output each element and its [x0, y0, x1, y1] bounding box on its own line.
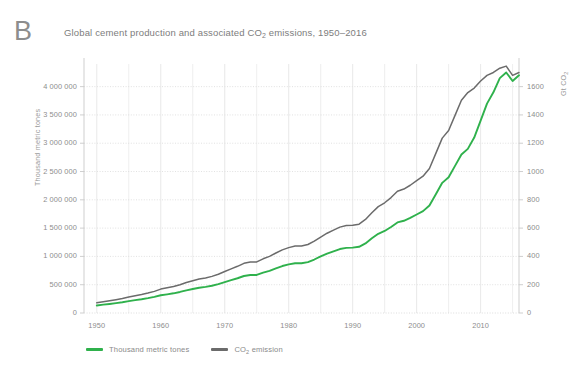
plot-area [0, 0, 587, 376]
y-axis-right-tick-label: 200 [527, 280, 540, 289]
legend-item[interactable]: Thousand metric tones [86, 345, 189, 354]
y-axis-right-tick-label: 800 [527, 195, 540, 204]
legend-swatch-icon [86, 348, 103, 350]
chart-figure: B Global cement production and associate… [0, 0, 587, 376]
y-axis-right-tick-label: 600 [527, 223, 540, 232]
x-axis-tick-label: 1950 [77, 321, 117, 330]
y-axis-left-tick-label: 3 500 000 [43, 110, 77, 119]
y-axis-left-tick-label: 3 000 000 [43, 138, 77, 147]
axis-lines [84, 58, 519, 313]
y-axis-right-tick-label: 0 [527, 308, 531, 317]
series-lines [97, 66, 519, 305]
gridlines-minor-x [129, 64, 513, 313]
legend-label: CO2 emission [234, 345, 282, 354]
legend-item[interactable]: CO2 emission [211, 345, 282, 354]
gridlines-y [84, 87, 519, 285]
y-axis-left-tick-label: 1 500 000 [43, 223, 77, 232]
y-axis-left-tick-label: 0 [73, 308, 77, 317]
series-line-co2 [97, 66, 519, 303]
x-axis-tick-label: 1970 [205, 321, 245, 330]
x-axis-tick-label: 1990 [333, 321, 373, 330]
y-axis-left-tick-label: 500 000 [50, 280, 77, 289]
y-axis-right-tick-label: 1400 [527, 110, 544, 119]
series-line-cement [97, 72, 519, 305]
y-axis-right-tick-label: 1600 [527, 82, 544, 91]
y-axis-right-tick-label: 1200 [527, 138, 544, 147]
legend-label: Thousand metric tones [109, 345, 189, 354]
y-axis-left-tick-label: 2 000 000 [43, 195, 77, 204]
chart-legend: Thousand metric tonesCO2 emission [86, 345, 283, 354]
x-axis-tick-label: 1980 [269, 321, 309, 330]
y-axis-right-tick-label: 1000 [527, 167, 544, 176]
y-axis-right-tick-label: 400 [527, 251, 540, 260]
y-axis-left-tick-label: 1 000 000 [43, 251, 77, 260]
legend-swatch-icon [211, 348, 228, 350]
y-axis-left-tick-label: 2 500 000 [43, 167, 77, 176]
x-axis-tick-label: 2000 [397, 321, 437, 330]
gridlines-major-x [97, 64, 481, 313]
y-axis-left-tick-label: 4 000 000 [43, 82, 77, 91]
x-axis-tick-label: 2010 [461, 321, 501, 330]
x-axis-tick-label: 1960 [141, 321, 181, 330]
